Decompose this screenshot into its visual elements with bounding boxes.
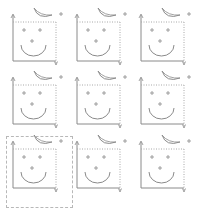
grid-tile-9[interactable] — [128, 127, 192, 193]
nose-icon — [94, 166, 98, 170]
grid-tile-3[interactable] — [128, 0, 192, 66]
up-arrow-icon — [75, 141, 79, 188]
smile-arc — [149, 108, 174, 119]
eye-left-icon — [22, 28, 26, 32]
plus-icon — [59, 75, 63, 79]
plus-icon — [59, 12, 63, 16]
smile-arc — [21, 45, 46, 56]
smile-arc — [149, 172, 174, 183]
grid-tile-2[interactable] — [64, 0, 128, 66]
grid-tile-1[interactable] — [0, 0, 64, 66]
up-arrow-icon — [139, 14, 143, 61]
nose-icon — [94, 102, 98, 106]
moon-icon — [162, 71, 180, 79]
smiley-chart-icon — [64, 0, 128, 66]
plus-icon — [187, 139, 191, 143]
dotted-frame — [141, 22, 186, 65]
plus-icon — [123, 12, 127, 16]
up-arrow-icon — [11, 14, 15, 61]
plus-icon — [187, 75, 191, 79]
eye-left-icon — [86, 155, 90, 159]
dotted-frame — [141, 85, 186, 128]
smile-arc — [21, 108, 46, 119]
dotted-frame — [77, 85, 122, 128]
smiley-chart-icon — [0, 0, 64, 66]
smiley-chart-icon — [128, 127, 192, 193]
up-arrow-icon — [11, 77, 15, 124]
moon-icon — [162, 8, 180, 16]
nose-icon — [94, 39, 98, 43]
eye-right-icon — [166, 28, 170, 32]
dotted-frame — [13, 85, 58, 128]
up-arrow-icon — [139, 141, 143, 188]
moon-icon — [34, 8, 52, 16]
moon-icon — [162, 135, 180, 143]
dotted-frame — [13, 22, 58, 65]
smiley-chart-icon — [0, 63, 64, 129]
nose-icon — [158, 166, 162, 170]
selection-border — [6, 136, 73, 208]
smiley-chart-icon — [128, 0, 192, 66]
dotted-frame — [77, 22, 122, 65]
dotted-frame — [141, 149, 186, 192]
plus-icon — [123, 139, 127, 143]
smile-arc — [85, 108, 110, 119]
grid-tile-6[interactable] — [128, 63, 192, 129]
grid-tile-4[interactable] — [0, 63, 64, 129]
eye-left-icon — [150, 28, 154, 32]
smile-arc — [85, 45, 110, 56]
eye-right-icon — [38, 28, 42, 32]
nose-icon — [30, 102, 34, 106]
nose-icon — [158, 102, 162, 106]
smiley-chart-icon — [64, 127, 128, 193]
smile-arc — [149, 45, 174, 56]
smiley-chart-icon — [128, 63, 192, 129]
plus-icon — [123, 75, 127, 79]
moon-icon — [34, 71, 52, 79]
eye-right-icon — [102, 28, 106, 32]
eye-left-icon — [22, 91, 26, 95]
plus-icon — [187, 12, 191, 16]
eye-right-icon — [38, 91, 42, 95]
up-arrow-icon — [75, 14, 79, 61]
nose-icon — [158, 39, 162, 43]
eye-right-icon — [102, 155, 106, 159]
eye-right-icon — [166, 91, 170, 95]
up-arrow-icon — [139, 77, 143, 124]
eye-right-icon — [102, 91, 106, 95]
smiley-chart-icon — [64, 63, 128, 129]
up-arrow-icon — [75, 77, 79, 124]
nose-icon — [30, 39, 34, 43]
smile-arc — [85, 172, 110, 183]
eye-left-icon — [86, 91, 90, 95]
dotted-frame — [77, 149, 122, 192]
moon-icon — [98, 71, 116, 79]
eye-left-icon — [150, 91, 154, 95]
eye-left-icon — [150, 155, 154, 159]
eye-left-icon — [86, 28, 90, 32]
moon-icon — [98, 135, 116, 143]
moon-icon — [98, 8, 116, 16]
eye-right-icon — [166, 155, 170, 159]
grid-tile-8[interactable] — [64, 127, 128, 193]
grid-tile-5[interactable] — [64, 63, 128, 129]
